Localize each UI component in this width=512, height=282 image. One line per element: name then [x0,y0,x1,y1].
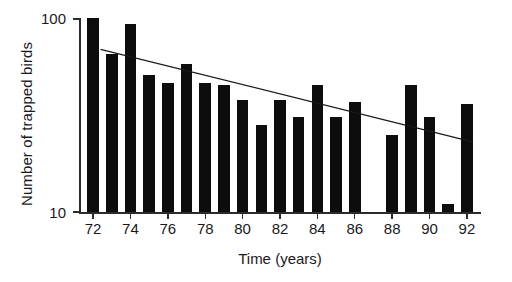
y-tick-mark-100 [73,18,80,20]
bar [442,204,454,212]
x-tick-mark [391,213,392,219]
x-tick-mark [92,213,93,219]
y-tick-label-100: 100 [24,11,66,26]
bar [199,83,211,212]
x-tick-label: 90 [410,221,450,236]
y-axis-line [79,18,81,213]
bar [125,24,137,212]
bar [143,75,155,212]
y-tick-label-10: 10 [24,205,66,220]
x-tick-label: 74 [110,221,150,236]
plot-area: 7274767880828486889092 [80,18,480,212]
bar [424,117,436,212]
x-tick-label: 78 [185,221,225,236]
bar [162,83,174,212]
bar [274,100,286,212]
bar [330,117,342,212]
bar [405,85,417,212]
bar [386,135,398,212]
x-tick-mark [466,213,467,219]
x-tick-label: 72 [73,221,113,236]
bar [461,104,473,212]
x-tick-mark [242,213,243,219]
x-tick-mark [317,213,318,219]
x-tick-mark [130,213,131,219]
x-tick-label: 92 [447,221,487,236]
x-tick-label: 86 [335,221,375,236]
bar [293,117,305,212]
x-tick-mark [167,213,168,219]
x-tick-mark [205,213,206,219]
bar [237,100,249,212]
x-tick-label: 76 [148,221,188,236]
x-tick-label: 80 [223,221,263,236]
bar [256,125,268,212]
x-tick-mark [429,213,430,219]
x-tick-label: 84 [297,221,337,236]
x-axis-title: Time (years) [80,250,480,267]
bar [312,85,324,212]
bar [181,64,193,212]
x-tick-mark [354,213,355,219]
bar [87,18,99,212]
x-axis-line [79,212,481,214]
bar [218,85,230,212]
x-tick-label: 82 [260,221,300,236]
bar [106,54,118,212]
chart-figure: Number of trapped birds 100 10 727476788… [0,0,512,282]
bar [349,102,361,212]
x-tick-mark [279,213,280,219]
x-tick-label: 88 [372,221,412,236]
